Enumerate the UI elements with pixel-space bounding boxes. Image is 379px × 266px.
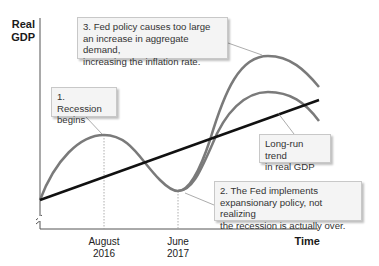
callout-fed-policy: 3. Fed policy causes too large an increa… [77, 17, 228, 59]
tick-august-2016: August 2016 [79, 236, 129, 260]
callout-long-run-trend: Long-run trend in real GDP [259, 134, 331, 163]
leader-long-run [278, 113, 294, 134]
tick-june-2017: June 2017 [153, 236, 203, 260]
callout-fed-implements: 2. The Fed implements expansionary polic… [214, 181, 362, 221]
leader-fed-implements [185, 193, 214, 205]
gdp-curve-overshoot [40, 56, 319, 200]
x-axis-label: Time [290, 235, 320, 248]
leader-recession [86, 117, 102, 134]
y-axis-label: Real GDP [2, 18, 35, 44]
leader-fed-policy [228, 43, 262, 55]
callout-recession-begins: 1. Recession begins [51, 87, 117, 117]
